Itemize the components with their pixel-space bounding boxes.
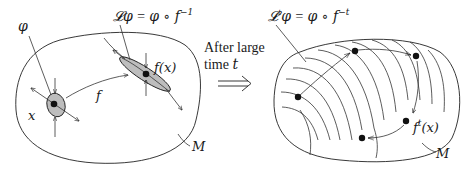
orbit-arrow-2 (358, 49, 411, 55)
operator-formula-left: 𝓛φ = φ ∘ f−1 (113, 7, 193, 24)
operator-formula-right: 𝓛tφ = φ ∘ f−t (268, 7, 350, 24)
unstable-arrow-up-fx (113, 50, 125, 59)
manifold-label-left: M (191, 139, 206, 154)
point-fx-dot (143, 71, 150, 78)
point-x-label: x (28, 108, 36, 123)
map-f-label: f (95, 88, 103, 103)
orbit-point-1 (295, 94, 301, 100)
implies-arrow-icon (218, 76, 251, 91)
phi-leader-line (29, 36, 53, 100)
orbit-arrow-4 (368, 125, 404, 138)
unstable-direction-fx (104, 38, 124, 58)
phi-label: φ (18, 18, 28, 34)
transition: After large time t (204, 40, 265, 91)
point-fx-label: f(x) (153, 60, 176, 75)
orbit-point-3 (413, 53, 419, 59)
transition-line-1: After large (204, 40, 265, 55)
manifold-label-leader-right (422, 143, 436, 152)
orbit-point-5 (359, 135, 365, 141)
point-x-dot (51, 101, 58, 108)
manifold-label-leader (178, 134, 190, 146)
unstable-arrow-down-fx (166, 89, 182, 110)
orbit-point-4 (403, 118, 409, 124)
orbit-point-label: ft(x) (412, 118, 439, 135)
left-panel: M φ x f f(x) 𝓛φ = φ ∘ f−1 (16, 7, 206, 163)
diagram-canvas: M φ x f f(x) 𝓛φ = φ ∘ f−1 (0, 0, 470, 172)
manifold-label-right: M (435, 146, 450, 161)
orbit-point-2 (352, 48, 358, 54)
orbit-arrow-3 (413, 61, 418, 113)
transition-line-2: time t (204, 56, 238, 72)
operator-leader-left (120, 25, 130, 60)
right-panel: M ft(x) (268, 7, 460, 162)
